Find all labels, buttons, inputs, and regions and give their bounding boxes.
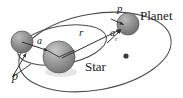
perihelion-top-label: p bbox=[117, 3, 123, 14]
perihelion-left-label: p bbox=[12, 70, 18, 82]
empty-focus-dot bbox=[123, 53, 128, 58]
planet-label: Planet bbox=[140, 9, 173, 22]
semi-major-star-label: a bbox=[37, 36, 42, 46]
radius-label: r bbox=[79, 27, 83, 38]
semi-major-planet-label: ar bbox=[110, 28, 117, 40]
planet-body bbox=[117, 13, 139, 35]
star-label: Star bbox=[85, 60, 106, 73]
orbit-diagram-figure: Planet Star p p a r ar bbox=[0, 0, 183, 98]
